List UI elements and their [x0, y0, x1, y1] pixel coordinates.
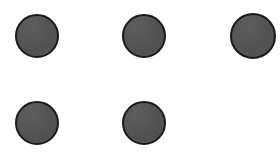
- circle-row1-col2: [122, 14, 166, 58]
- circle-row2-col1: [15, 101, 59, 145]
- circle-row2-col2: [122, 101, 166, 145]
- circle-row1-col3: [230, 13, 276, 59]
- shape-canvas: [0, 0, 280, 166]
- circle-row1-col1: [15, 14, 59, 58]
